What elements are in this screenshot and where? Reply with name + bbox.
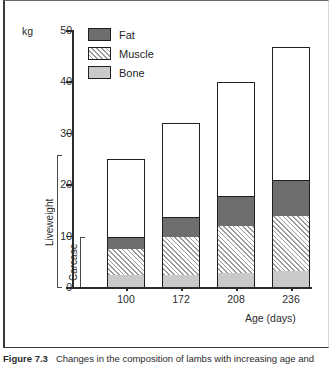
- x-tick-mark-236: [291, 287, 293, 291]
- x-tick-label-208: 208: [212, 293, 260, 305]
- x-axis-line: [72, 287, 312, 289]
- x-axis-title: Age (days): [245, 312, 296, 324]
- x-tick-mark-208: [236, 287, 238, 291]
- x-tick-label-172: 172: [157, 293, 205, 305]
- x-tick-label-236: 236: [267, 293, 315, 305]
- muscle-swatch-icon: [88, 47, 111, 60]
- bar-segment-bone-208: [218, 273, 254, 287]
- bar-segment-bone-100: [108, 275, 144, 287]
- fat-swatch-icon: [88, 28, 111, 41]
- bar-age-172[interactable]: [162, 123, 200, 289]
- legend-label-muscle: Muscle: [119, 48, 154, 60]
- bar-age-100[interactable]: [107, 159, 145, 289]
- x-tick-label-100: 100: [102, 293, 150, 305]
- figure-caption-text: Changes in the composition of lambs with…: [56, 353, 314, 364]
- y-axis-unit-label: kg: [22, 25, 33, 37]
- bar-segment-bone-236: [273, 271, 309, 288]
- legend-item-bone: Bone: [88, 64, 154, 81]
- carcase-bracket-label: Carcase: [68, 240, 79, 285]
- y-tick-label-30: 30: [44, 128, 72, 139]
- y-tick-label-50: 50: [44, 25, 72, 36]
- liveweight-bracket-label: Liveweight: [44, 180, 55, 265]
- figure-caption: Figure 7.3Changes in the composition of …: [3, 353, 331, 365]
- bar-segment-bone-172: [163, 275, 199, 287]
- bar-age-236[interactable]: [272, 47, 310, 289]
- legend-label-bone: Bone: [119, 67, 145, 79]
- chart-legend: Fat Muscle Bone: [88, 26, 154, 83]
- bar-age-208[interactable]: [217, 82, 255, 289]
- legend-item-muscle: Muscle: [88, 45, 154, 62]
- y-tick-label-40: 40: [44, 76, 72, 87]
- figure-caption-number: Figure 7.3: [3, 353, 48, 364]
- x-tick-mark-100: [126, 287, 128, 291]
- chart-plot-area: kg 0 10 20 30 40 50 Fat Muscle Bone: [0, 0, 331, 348]
- bone-swatch-icon: [88, 66, 111, 79]
- legend-item-fat: Fat: [88, 26, 154, 43]
- carcase-bracket: [80, 237, 85, 288]
- liveweight-bracket: [57, 155, 62, 288]
- x-tick-mark-172: [181, 287, 183, 291]
- legend-label-fat: Fat: [119, 29, 135, 41]
